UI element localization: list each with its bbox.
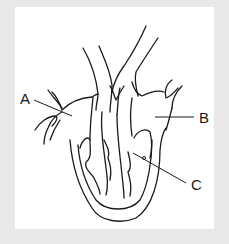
right-atrium-wall <box>166 108 172 130</box>
right-atrium-inner <box>131 98 133 136</box>
left-valve-contour <box>80 138 100 194</box>
label-b: B <box>199 109 209 126</box>
right-pulmonary-vein-1 <box>165 80 178 98</box>
label-a: A <box>20 90 30 107</box>
aorta-right <box>135 38 158 96</box>
label-c: C <box>191 176 202 193</box>
label-c-marker <box>143 157 146 160</box>
heart-diagram: A B C <box>0 0 229 244</box>
left-atrium-top <box>52 92 98 110</box>
right-inner-wall <box>134 130 152 158</box>
left-atrium-wall <box>90 97 93 140</box>
right-valve-contour <box>128 152 131 196</box>
superior-vena-cava-right <box>99 46 112 112</box>
superior-vena-cava-left <box>83 48 98 110</box>
septum-left <box>101 112 107 195</box>
left-pulmonary-vein <box>48 90 62 108</box>
inner-ventricle-wall <box>78 140 152 209</box>
aorta-left <box>112 26 146 92</box>
septum-right <box>117 115 124 198</box>
label-a-leader <box>34 100 72 116</box>
